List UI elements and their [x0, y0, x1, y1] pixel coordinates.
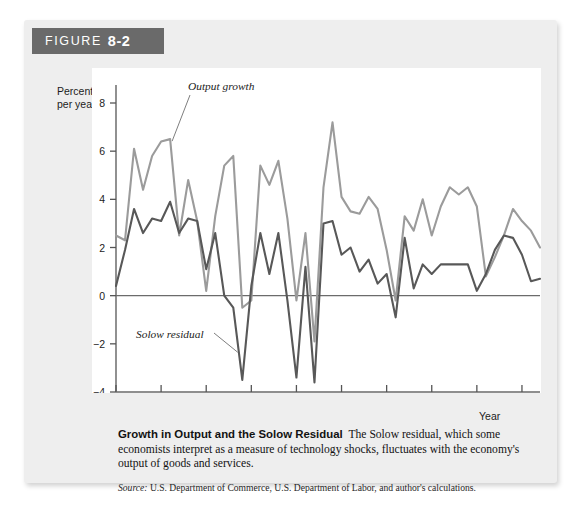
y-tick-label: −2 — [93, 338, 105, 350]
line-chart: 86420−2−41960196519701975198019851990199… — [92, 68, 541, 393]
plot-area: 86420−2−41960196519701975198019851990199… — [92, 68, 541, 393]
annotation-leader-solow-residual — [214, 333, 238, 352]
y-tick-label: −4 — [93, 386, 105, 393]
caption-block: Growth in Output and the Solow Residual … — [118, 427, 523, 493]
figure-panel: FIGURE 8-2 Percent per year Year 86420−2… — [24, 20, 557, 483]
annotation-solow-residual: Solow residual — [136, 328, 204, 340]
annotation-leader-output-growth — [172, 95, 190, 141]
figure-banner-number: 8-2 — [108, 33, 130, 49]
figure-caption: Growth in Output and the Solow Residual … — [118, 427, 523, 472]
y-tick-label: 8 — [99, 97, 105, 109]
y-tick-label: 6 — [99, 145, 105, 157]
caption-title: Growth in Output and the Solow Residual — [118, 428, 343, 440]
source-label: Source: — [118, 482, 147, 493]
source-body: U.S. Department of Commerce, U.S. Depart… — [150, 482, 476, 493]
y-tick-label: 4 — [99, 193, 105, 205]
figure-number-banner: FIGURE 8-2 — [32, 28, 164, 54]
y-tick-label: 2 — [99, 242, 105, 254]
y-tick-label: 0 — [99, 290, 105, 302]
source-line: Source: U.S. Department of Commerce, U.S… — [118, 482, 523, 493]
annotation-output-growth: Output growth — [188, 80, 255, 92]
x-axis-title: Year — [479, 410, 500, 422]
figure-banner-word: FIGURE — [45, 34, 102, 48]
